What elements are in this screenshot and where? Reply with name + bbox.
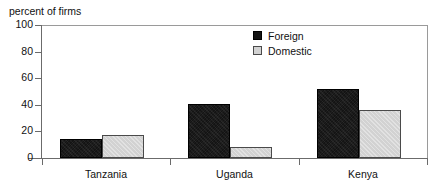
y-tick-mark [35,78,41,79]
x-tick-separator [427,158,428,165]
chart-legend: Foreign Domestic [253,29,312,59]
y-tick-label-100: 100 [15,18,33,31]
bars-layer [42,25,428,158]
bar-kenya-foreign [317,89,359,158]
legend-item-domestic: Domestic [253,44,312,57]
y-tick-mark [35,131,41,132]
legend-swatch-domestic-icon [253,46,262,55]
x-tick-separator [170,158,171,165]
x-axis-line [28,158,428,159]
y-tick-label-80: 80 [21,45,33,58]
x-tick-separator [42,158,43,165]
x-axis-label-tanzania: Tanzania [42,168,170,181]
bar-tanzania-domestic [102,135,144,158]
y-tick-mark [35,25,41,26]
y-tick-label-60: 60 [21,71,33,84]
x-axis-label-kenya: Kenya [299,168,427,181]
y-tick-mark [35,158,41,159]
y-tick-mark [35,105,41,106]
bar-uganda-foreign [188,104,230,159]
y-tick-label-20: 20 [21,124,33,137]
bar-chart: percent of firms 100 80 60 40 20 0 [0,0,443,196]
legend-label-domestic: Domestic [268,45,312,57]
legend-swatch-foreign-icon [253,31,262,40]
y-tick-mark [35,52,41,53]
x-tick-separator [299,158,300,165]
y-tick-label-40: 40 [21,98,33,111]
legend-label-foreign: Foreign [268,30,304,42]
bar-tanzania-foreign [60,139,102,158]
bar-uganda-domestic [230,147,272,158]
y-tick-label-0: 0 [27,151,33,164]
legend-item-foreign: Foreign [253,29,312,42]
x-axis-label-uganda: Uganda [170,168,299,181]
y-axis-title: percent of firms [9,5,81,17]
bar-kenya-domestic [359,110,401,158]
